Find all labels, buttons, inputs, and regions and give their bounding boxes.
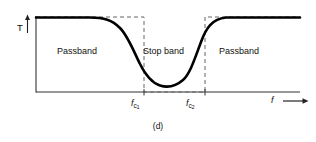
- fc1-subscript: c1: [134, 102, 140, 109]
- figure-band-stop-filter-response: T f Passband Stop band Passband fc1 fc2 …: [0, 0, 316, 142]
- y-axis-label: T: [17, 23, 23, 33]
- label-passband-right: Passband: [219, 47, 259, 56]
- fc2-sub-num: 2: [192, 104, 195, 110]
- x-tick-label-fc2: fc2: [186, 99, 194, 111]
- y-axis-arrow-icon: [25, 15, 30, 34]
- x-axis-label: f: [271, 96, 274, 105]
- x-axis-arrow-icon: [283, 98, 309, 103]
- label-stop-band: Stop band: [143, 47, 184, 56]
- x-tick-label-fc1: fc1: [131, 99, 139, 111]
- fc1-sub-num: 1: [137, 104, 140, 110]
- figure-caption: (d): [0, 122, 316, 131]
- fc2-subscript: c2: [189, 102, 195, 109]
- label-passband-left: Passband: [57, 47, 97, 56]
